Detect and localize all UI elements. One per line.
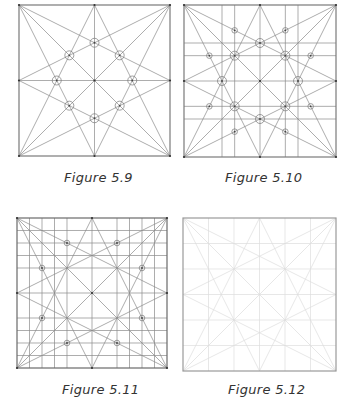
caption-figure-5-12: Figure 5.12 [228,382,305,397]
intersection-dot [221,80,223,82]
vertex-dot [91,292,93,294]
intersection-dot [259,118,261,120]
vertex-dot [183,4,185,6]
caption-figure-5-11: Figure 5.11 [62,382,139,397]
vertex-dot [18,4,20,6]
vertex-dot [169,4,171,6]
caption-figure-5-9: Figure 5.9 [64,170,133,185]
construction-diagram [183,218,336,371]
vertex-dot [166,292,168,294]
intersection-dot [284,29,286,31]
intersection-dot [234,29,236,31]
figure-5-12 [183,218,336,371]
vertex-dot [259,4,261,6]
intersection-dot [141,267,143,269]
intersection-dot [41,317,43,319]
intersection-dot [284,131,286,133]
intersection-dot [94,42,96,44]
intersection-dot [259,42,261,44]
vertex-dot [18,79,20,81]
vertex-dot [335,4,337,6]
figure-5-9 [19,5,170,156]
construction-diagram [184,5,336,157]
vertex-dot [18,155,20,157]
intersection-dot [234,131,236,133]
vertex-dot [93,155,95,157]
figure-5-11 [17,218,167,368]
vertex-dot [335,156,337,158]
intersection-dot [234,55,236,57]
vertex-dot [169,155,171,157]
intersection-dot [284,55,286,57]
construction-diagram [17,218,167,368]
intersection-dot [68,105,70,107]
vertex-dot [169,79,171,81]
vertex-dot [259,156,261,158]
intersection-dot [94,117,96,119]
intersection-dot [208,105,210,107]
vertex-dot [183,156,185,158]
intersection-dot [284,105,286,107]
intersection-dot [131,80,133,82]
intersection-dot [310,105,312,107]
figure-5-10 [184,5,336,157]
intersection-dot [68,54,70,56]
intersection-dot [208,55,210,57]
vertex-dot [16,292,18,294]
vertex-dot [259,80,261,82]
intersection-dot [234,105,236,107]
vertex-dot [93,4,95,6]
intersection-dot [66,342,68,344]
caption-figure-5-10: Figure 5.10 [225,170,302,185]
construction-diagram [19,5,170,156]
intersection-dot [297,80,299,82]
intersection-dot [310,55,312,57]
vertex-dot [183,80,185,82]
intersection-dot [119,105,121,107]
vertex-dot [91,217,93,219]
intersection-dot [116,242,118,244]
vertex-dot [166,217,168,219]
vertex-dot [335,80,337,82]
vertex-dot [93,79,95,81]
intersection-dot [119,54,121,56]
vertex-dot [166,367,168,369]
intersection-dot [56,80,58,82]
intersection-dot [141,317,143,319]
vertex-dot [16,367,18,369]
intersection-dot [116,342,118,344]
intersection-dot [66,242,68,244]
vertex-dot [91,367,93,369]
vertex-dot [16,217,18,219]
intersection-dot [41,267,43,269]
